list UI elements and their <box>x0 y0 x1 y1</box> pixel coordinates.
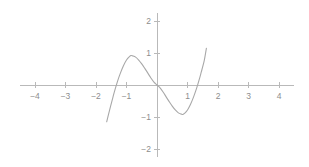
cartesian-plot <box>0 0 309 167</box>
x-tick-label: −4 <box>30 92 40 101</box>
y-tick-label: 1 <box>146 49 151 58</box>
x-tick-label: −2 <box>91 92 101 101</box>
x-tick-label: 1 <box>185 92 190 101</box>
x-tick-label: 2 <box>216 92 221 101</box>
x-tick-label: −1 <box>122 92 132 101</box>
x-tick-label: −3 <box>61 92 71 101</box>
y-tick-label: −2 <box>141 145 151 154</box>
y-tick-label: 2 <box>146 17 151 26</box>
y-tick-label: −1 <box>141 113 151 122</box>
x-tick-label: 4 <box>277 92 282 101</box>
chart-canvas: −4−3−2−11234−2−112 <box>0 0 309 167</box>
x-tick-label: 3 <box>246 92 251 101</box>
